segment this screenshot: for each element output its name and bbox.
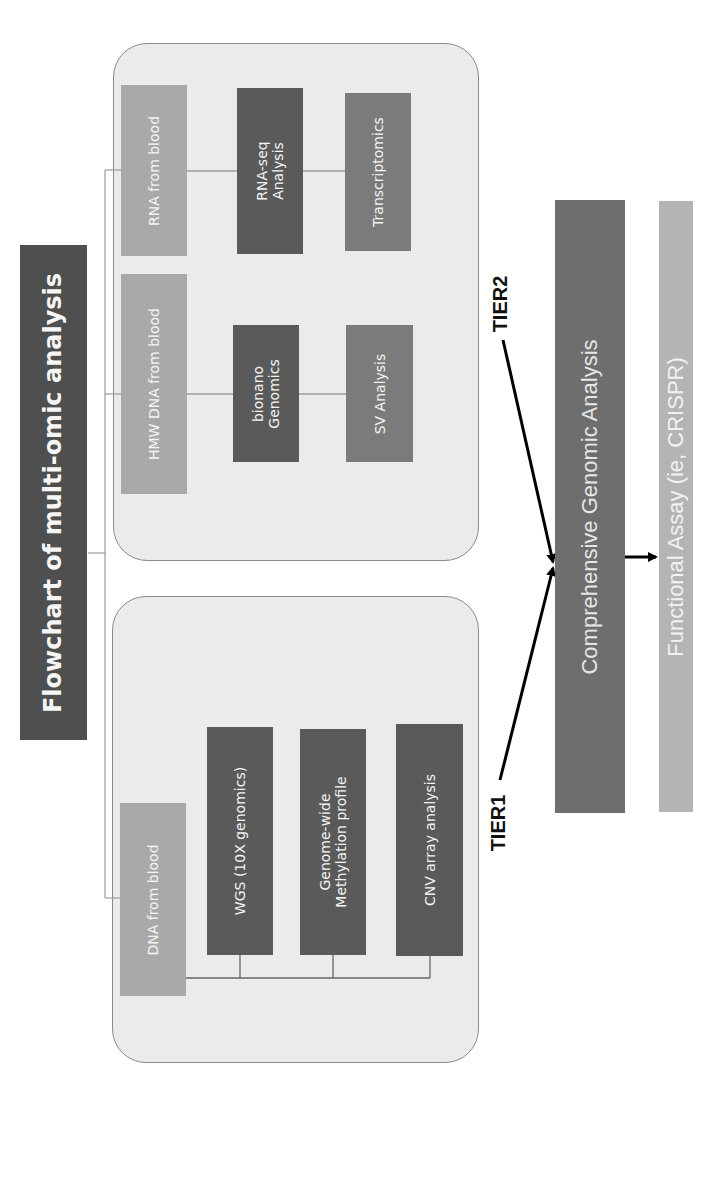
rna-from-blood-box: RNA from blood: [121, 85, 187, 256]
methylation-label: Genome-wide Methylation profile: [317, 776, 349, 907]
comprehensive-genomic-analysis-bar: Comprehensive Genomic Analysis: [555, 200, 625, 813]
tier1-label-wrap: TIER1: [486, 785, 510, 861]
diagram-title: Flowchart of multi-omic analysis: [40, 272, 68, 712]
hmw-dna-box: HMW DNA from blood: [121, 274, 187, 494]
rna-seq-analysis-box: RNA-seq Analysis: [237, 88, 303, 254]
methylation-box: Genome-wide Methylation profile: [300, 729, 366, 955]
bionano-genomics-box: bionano Genomics: [233, 325, 299, 462]
transcriptomics-box: Transcriptomics: [345, 93, 411, 251]
sv-analysis-label: SV Analysis: [371, 353, 387, 434]
rna-seq-analysis-label: RNA-seq Analysis: [254, 141, 286, 200]
wgs-label: WGS (10X genomics): [232, 767, 248, 915]
bionano-genomics-label: bionano Genomics: [250, 359, 282, 428]
dna-from-blood-box: DNA from blood: [120, 803, 186, 996]
title-bar: Flowchart of multi-omic analysis: [20, 245, 87, 740]
functional-assay-label: Functional Assay (ie, CRISPR): [663, 357, 688, 657]
wgs-box: WGS (10X genomics): [207, 727, 273, 955]
dna-from-blood-label: DNA from blood: [145, 844, 161, 955]
rna-from-blood-label: RNA from blood: [146, 115, 162, 225]
tier1-label: TIER1: [487, 795, 510, 852]
cnv-array-label: CNV array analysis: [421, 774, 437, 906]
sv-analysis-box: SV Analysis: [346, 325, 413, 462]
cnv-array-box: CNV array analysis: [396, 724, 463, 956]
tier2-label: TIER2: [489, 276, 512, 333]
tier2-label-wrap: TIER2: [488, 272, 512, 336]
comprehensive-genomic-analysis-label: Comprehensive Genomic Analysis: [577, 339, 602, 674]
functional-assay-bar: Functional Assay (ie, CRISPR): [659, 201, 693, 812]
transcriptomics-label: Transcriptomics: [370, 117, 386, 227]
hmw-dna-label: HMW DNA from blood: [146, 308, 162, 460]
